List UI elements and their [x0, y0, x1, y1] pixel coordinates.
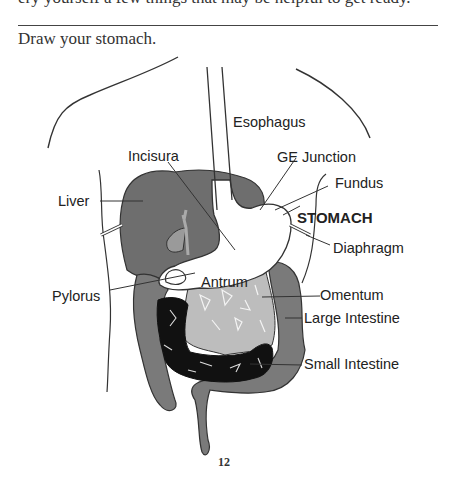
- label-esophagus: Esophagus: [233, 114, 306, 130]
- label-diaphragm: Diaphragm: [333, 240, 404, 256]
- label-incisura: Incisura: [128, 148, 180, 164]
- label-small-intestine: Small Intestine: [304, 356, 399, 372]
- page-number: 12: [218, 455, 230, 470]
- label-omentum: Omentum: [320, 287, 384, 303]
- torso-right-shoulder: [296, 69, 370, 138]
- label-stomach: STOMACH: [297, 209, 373, 226]
- label-large-intestine: Large Intestine: [304, 310, 400, 326]
- label-fundus: Fundus: [335, 175, 383, 191]
- label-ge-junction: GE Junction: [277, 149, 356, 165]
- torso-right-side: [302, 174, 326, 283]
- stomach-diagram: Esophagus Incisura GE Junction Fundus Li…: [0, 0, 450, 481]
- label-liver: Liver: [58, 193, 90, 209]
- torso-left-side: [99, 170, 111, 392]
- torso-left-shoulder: [48, 57, 178, 148]
- label-pylorus: Pylorus: [52, 288, 100, 304]
- label-antrum: Antrum: [201, 274, 248, 290]
- diaphragm-right-inner: [290, 225, 310, 235]
- diaphragm-left-inner: [101, 225, 122, 235]
